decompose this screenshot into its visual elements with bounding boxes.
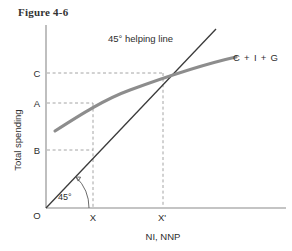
helping-line-label: 45° helping line: [108, 33, 173, 44]
guide-lines: [47, 73, 163, 207]
economics-chart: C A B O X X' Total spending NI, NNP 45° …: [0, 0, 292, 251]
cig-series-label: C + I + G: [233, 52, 279, 63]
y-tick-label-c: C: [34, 68, 41, 79]
y-tick-label-b: B: [34, 145, 40, 156]
y-tick-label-a: A: [34, 98, 41, 109]
y-axis-title: Total spending: [12, 109, 23, 170]
x-axis-title: NI, NNP: [146, 231, 181, 242]
cig-curve: [55, 57, 236, 131]
angle-arc-45deg: [76, 177, 89, 208]
origin-label: O: [33, 210, 40, 221]
helping-line-45deg: [46, 29, 216, 208]
x-tick-label-x: X: [90, 212, 97, 223]
x-tick-label-x-prime: X': [158, 212, 166, 223]
angle-label-45deg: 45°: [58, 192, 72, 202]
figure-container: Figure 4-6 C A B O: [0, 0, 292, 251]
